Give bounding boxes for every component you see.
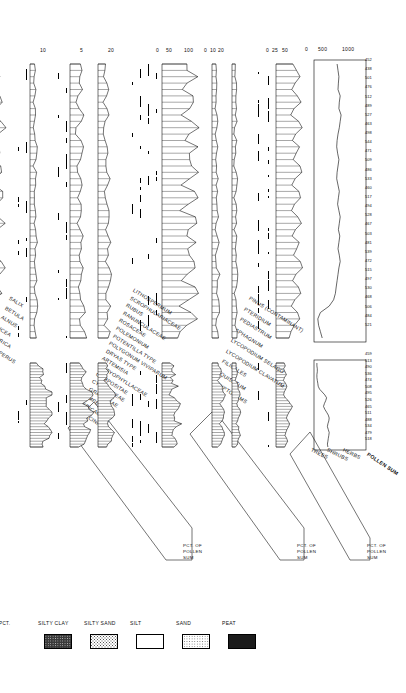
curve-panel-trees-shrubs-1: [276, 60, 306, 450]
presence-dash: [66, 288, 67, 298]
presence-dash: [258, 111, 259, 118]
legend-label: SILTY SAND: [84, 620, 116, 626]
presence-dash: [268, 252, 269, 254]
presence-dash: [26, 201, 27, 212]
presence-dash: [268, 147, 269, 151]
presence-dash: [18, 147, 19, 152]
presence-dash: [140, 115, 141, 120]
axis-20-c: 20: [108, 47, 114, 53]
presence-dash: [18, 411, 19, 420]
plot-herb-1: [98, 60, 122, 450]
presence-dash: [156, 238, 157, 243]
presence-dash: [156, 171, 157, 175]
presence-dash: [258, 151, 259, 160]
presence-dash: [268, 271, 269, 279]
presence-dash: [140, 214, 141, 219]
presence-dash: [132, 204, 133, 214]
presence-dash: [140, 195, 141, 202]
presence-dash: [26, 248, 27, 257]
presence-dash: [66, 222, 67, 233]
presence-row-7: [65, 60, 68, 450]
presence-dash: [268, 280, 269, 290]
presence-dash: [268, 175, 269, 177]
presence-dash: [258, 134, 259, 145]
presence-dash: [148, 401, 149, 406]
presence-dash: [58, 115, 59, 118]
presence-dash: [258, 391, 259, 400]
presence-row-8: [57, 60, 60, 450]
curve-panel-herb-3: [30, 60, 52, 450]
legend-label: SILTY CLAY: [38, 620, 69, 626]
legend-swatch: [228, 634, 256, 649]
axis-0-c: 0: [156, 47, 159, 53]
presence-row-9: [25, 60, 28, 450]
presence-dash: [66, 159, 67, 169]
presence-dash: [258, 72, 259, 74]
axis-50-b: 50: [166, 47, 172, 53]
presence-dash: [58, 408, 59, 412]
presence-dash: [268, 233, 269, 239]
presence-dash: [26, 400, 27, 405]
presence-dash: [66, 138, 67, 143]
plot-small-2: [212, 60, 230, 450]
presence-dash: [26, 238, 27, 241]
pollen-sum-plot: [314, 60, 366, 450]
presence-dash: [132, 258, 133, 264]
presence-row-6: [131, 60, 134, 450]
presence-dash: [148, 176, 149, 185]
axis-25-a: 25: [272, 47, 278, 53]
presence-dash: [66, 235, 67, 240]
presence-dash: [268, 76, 269, 85]
presence-row-10: [17, 60, 20, 450]
presence-dash: [66, 368, 67, 372]
presence-dash: [268, 228, 269, 231]
presence-dash: [258, 220, 259, 231]
curve-panel-small-2: [212, 60, 230, 450]
pollen-sum-panel: [314, 60, 366, 450]
presence-dash: [140, 425, 141, 436]
plot-herb-2: [70, 60, 94, 450]
plot-trees-shrubs-1: [276, 60, 306, 450]
pollen-sum-tick-500: 500: [318, 46, 327, 52]
legend-label: SILT: [130, 620, 141, 626]
presence-dash: [258, 100, 259, 103]
legend-label: SAND: [176, 620, 191, 626]
presence-dash: [268, 160, 269, 164]
legend-scale-note: + = < 1 PCT.: [0, 621, 10, 626]
rotated-figure-wrapper: 4524385014765124895274634985444715094865…: [0, 0, 406, 693]
pollen-sum-tick-1000: 1000: [342, 46, 354, 52]
curve-panel-betula: [0, 60, 12, 450]
presence-dash: [66, 128, 67, 132]
curve-panel-herb-2: [70, 60, 94, 450]
presence-dash: [268, 111, 269, 122]
legend-swatch: [136, 634, 164, 649]
presence-dash: [258, 286, 259, 293]
presence-row-1: [267, 60, 270, 450]
presence-dash: [156, 73, 157, 79]
presence-dash: [58, 270, 59, 272]
axis-0-a: 0: [266, 47, 269, 53]
pollen-diagram: 4524385014765124895274634985444715094865…: [0, 0, 406, 693]
presence-dash: [58, 174, 59, 177]
presence-dash: [258, 308, 259, 313]
presence-dash: [58, 213, 59, 220]
pollen-sum-tick-0: 0: [305, 46, 308, 52]
presence-dash: [58, 433, 59, 439]
presence-dash: [18, 251, 19, 255]
axis-10-a: 10: [210, 47, 216, 53]
curve-panel-herb-1: [98, 60, 122, 450]
presence-dash: [148, 64, 149, 76]
presence-dash: [148, 254, 149, 258]
presence-dash: [156, 403, 157, 409]
presence-dash: [156, 109, 157, 113]
axis-20-a: 20: [218, 47, 224, 53]
presence-dash: [148, 118, 149, 125]
presence-dash: [18, 240, 19, 244]
legend-label: PEAT: [222, 620, 236, 626]
presence-dash: [156, 432, 157, 444]
presence-dash: [258, 263, 259, 267]
presence-dash: [132, 82, 133, 84]
presence-dash: [268, 98, 269, 108]
presence-dash: [140, 96, 141, 107]
presence-dash: [140, 440, 141, 443]
